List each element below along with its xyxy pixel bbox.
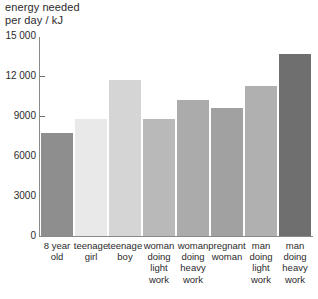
x-axis-category-labels: 8 year oldteenage girlteenage boywoman d… — [40, 240, 314, 298]
bar — [74, 118, 108, 236]
y-tick-label-15000: 15 000 — [0, 31, 36, 41]
y-tick-label-12000: 12 000 — [0, 71, 36, 81]
x-axis-line — [39, 236, 313, 237]
bar — [142, 118, 176, 236]
category-label: man doing heavy work — [275, 240, 315, 285]
y-tick-label-9000: 9000 — [0, 111, 36, 121]
bar — [176, 99, 210, 236]
bar-series — [40, 36, 312, 236]
bar — [210, 107, 244, 236]
bar — [108, 79, 142, 236]
y-tick-label-0: 0 — [0, 231, 36, 241]
bar — [40, 132, 74, 236]
bar — [244, 85, 278, 236]
y-tick-label-3000: 3000 — [0, 191, 36, 201]
y-tick-label-6000: 6000 — [0, 151, 36, 161]
bar — [278, 53, 312, 236]
bar-chart-figure: energy needed per day / kJ 15 000 12 000… — [0, 0, 318, 299]
y-axis-tick-labels: 15 000 12 000 9000 6000 3000 0 — [0, 0, 36, 299]
